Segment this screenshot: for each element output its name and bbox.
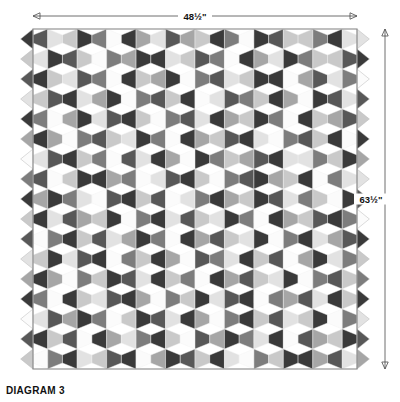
hexagon-half-left [121, 129, 136, 149]
edge-half-hexagon-right [357, 129, 369, 149]
hexagon-half-right [342, 349, 357, 369]
hexagon-half-left [328, 209, 343, 229]
hexagon-half-left [210, 109, 225, 129]
hexagon-half-left [239, 149, 254, 169]
edge-half-hexagon-right [357, 69, 369, 89]
hexagon-half-left [62, 89, 77, 109]
hexagon-half-right [224, 269, 239, 289]
hexagon-half-right [195, 69, 210, 89]
hexagon-half-left [269, 349, 284, 369]
hexagon-half-left [33, 69, 48, 89]
hexagon-half-left [180, 249, 195, 269]
hexagon-half-right [283, 129, 298, 149]
hexagon-half-left [269, 149, 284, 169]
hexagon-half-right [342, 269, 357, 289]
hexagon-half-right [77, 69, 92, 89]
hexagon-half-right [283, 269, 298, 289]
hexagon-half-right [342, 89, 357, 109]
hexagon-half-right [77, 129, 92, 149]
hexagon-half-right [342, 329, 357, 349]
hexagon-half-left [180, 229, 195, 249]
hexagon-half-right [254, 229, 269, 249]
hexagon-half-left [33, 349, 48, 369]
hexagon-half-right [77, 289, 92, 309]
hexagon-half-right [136, 189, 151, 209]
hexagon-half-left [33, 149, 48, 169]
hexagon-half-right [166, 289, 181, 309]
hexagon-half-left [62, 309, 77, 329]
hexagon-half-left [62, 49, 77, 69]
hexagon-half-right [107, 269, 122, 289]
hexagon-half-left [180, 169, 195, 189]
hexagon-half-left [33, 249, 48, 269]
hexagon-half-left [62, 189, 77, 209]
hexagon-half-right [254, 89, 269, 109]
edge-half-hexagon-right [357, 109, 369, 129]
hexagon-half-right [136, 209, 151, 229]
hexagon-half-left [210, 49, 225, 69]
hexagon-half-right [313, 109, 328, 129]
hexagon-half-left [298, 329, 313, 349]
edge-half-hexagon-right [357, 89, 369, 109]
hexagon-half-right [166, 169, 181, 189]
hexagon-half-right [313, 309, 328, 329]
hexagon-half-left [62, 349, 77, 369]
hexagon-half-right [283, 329, 298, 349]
hexagon-half-left [328, 69, 343, 89]
hexagon-half-right [166, 29, 181, 49]
hexagon-half-left [33, 49, 48, 69]
hexagon-half-left [92, 189, 107, 209]
hexagon-half-left [210, 229, 225, 249]
hexagon-half-right [107, 289, 122, 309]
hexagon-half-left [239, 109, 254, 129]
hexagon-half-right [342, 149, 357, 169]
hexagon-half-right [313, 249, 328, 269]
hexagon-half-right [195, 149, 210, 169]
hexagon-half-left [33, 329, 48, 349]
hexagon-half-left [210, 349, 225, 369]
hexagon-half-right [166, 89, 181, 109]
hexagon-half-left [298, 109, 313, 129]
edge-half-hexagon-right [357, 309, 369, 329]
hexagon-half-left [298, 89, 313, 109]
hexagon-half-left [328, 169, 343, 189]
hexagon-half-right [254, 309, 269, 329]
hexagon-half-left [328, 289, 343, 309]
hexagon-half-right [107, 349, 122, 369]
hexagon-half-left [121, 49, 136, 69]
hexagon-half-right [195, 229, 210, 249]
hexagon-half-right [313, 29, 328, 49]
hexagon-half-left [62, 329, 77, 349]
hexagon-half-left [269, 269, 284, 289]
hexagon-half-left [62, 249, 77, 269]
hexagon-half-left [92, 49, 107, 69]
hexagon-half-left [298, 249, 313, 269]
hexagon-half-right [224, 309, 239, 329]
hexagon-half-left [239, 209, 254, 229]
hexagon-half-right [48, 29, 63, 49]
hexagon-half-left [269, 109, 284, 129]
hexagon-half-left [180, 89, 195, 109]
hexagon-half-right [77, 249, 92, 269]
hexagon-half-left [328, 149, 343, 169]
hexagon-half-left [239, 129, 254, 149]
hexagon-half-left [121, 169, 136, 189]
hexagon-half-left [269, 29, 284, 49]
hexagon-half-left [62, 69, 77, 89]
hexagon-half-right [224, 149, 239, 169]
hexagon-half-left [210, 29, 225, 49]
hexagon-half-right [166, 49, 181, 69]
hexagon-half-right [77, 89, 92, 109]
hexagon-half-left [298, 69, 313, 89]
hexagon-half-right [136, 109, 151, 129]
edge-half-hexagon-left [21, 169, 33, 189]
hexagon-half-right [48, 169, 63, 189]
hexagon-half-left [121, 249, 136, 269]
edge-half-hexagon-left [21, 149, 33, 169]
hexagon-half-left [180, 269, 195, 289]
hexagon-half-left [151, 349, 166, 369]
hexagon-half-left [62, 209, 77, 229]
hexagon-half-left [92, 229, 107, 249]
hexagon-half-right [107, 169, 122, 189]
hexagon-half-left [62, 229, 77, 249]
